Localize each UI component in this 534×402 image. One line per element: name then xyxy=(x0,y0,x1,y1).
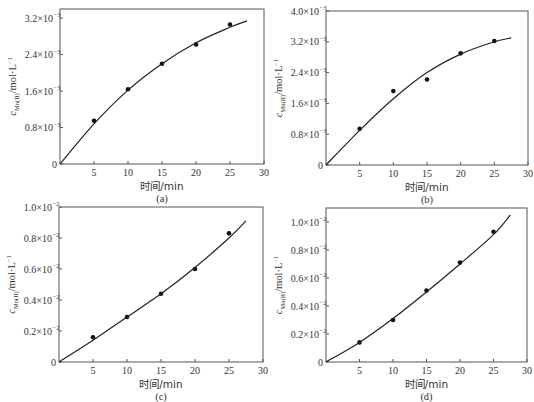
x-tick-label: 5 xyxy=(357,365,362,376)
x-tick-label: 20 xyxy=(190,365,200,376)
y-tick-label: 0.4×10 xyxy=(291,301,319,312)
x-tick-label: 15 xyxy=(422,168,432,179)
y-tick-label: 3.2×10 xyxy=(25,13,53,24)
fit-curve xyxy=(59,221,246,362)
y-tick-label: 0.2×10 xyxy=(291,329,319,340)
panel-c: 5101520253000.2×10−20.4×10−20.6×10−20.8×… xyxy=(5,200,268,402)
y-tick-exponent: −3 xyxy=(320,127,327,134)
y-tick-exponent: −3 xyxy=(54,48,61,55)
x-axis-label: 时间/min xyxy=(139,378,182,390)
x-tick-label: 5 xyxy=(91,365,96,376)
y-tick-label: 0 xyxy=(318,357,323,368)
y-tick-label: 4.0×10 xyxy=(291,6,319,17)
y-axis-label: cMn(II)/mol·L−1 xyxy=(5,255,20,313)
x-tick-label: 25 xyxy=(489,365,499,376)
y-tick-label: 0.6×10 xyxy=(291,273,319,284)
y-tick-label: 2.4×10 xyxy=(291,67,319,78)
y-tick-exponent: −3 xyxy=(320,4,327,11)
data-point xyxy=(391,89,396,94)
x-tick-label: 10 xyxy=(388,168,398,179)
plot-frame xyxy=(59,207,263,362)
y-tick-exponent: −3 xyxy=(54,11,61,18)
y-tick-exponent: −2 xyxy=(320,299,327,306)
panel-b: 5101520253000.8×10−31.6×10−32.4×10−33.2×… xyxy=(272,4,533,206)
fit-curve xyxy=(326,215,510,362)
y-tick-exponent: −2 xyxy=(53,200,60,207)
y-axis-label: cMn(II)/mol·L−1 xyxy=(272,256,287,314)
data-point xyxy=(425,77,430,82)
panel-caption: (d) xyxy=(420,391,433,402)
panel-caption: (c) xyxy=(155,391,167,402)
y-tick-label: 0 xyxy=(51,357,56,368)
y-tick-exponent: −2 xyxy=(53,324,60,331)
plot-frame xyxy=(326,11,528,165)
x-tick-label: 10 xyxy=(123,167,133,178)
x-tick-label: 30 xyxy=(522,365,532,376)
y-tick-label: 1.0×10 xyxy=(24,202,52,213)
y-tick-label: 1.0×10 xyxy=(291,217,319,228)
y-tick-label: 0.8×10 xyxy=(25,122,53,133)
panel-caption: (a) xyxy=(156,193,168,205)
y-tick-exponent: −3 xyxy=(54,121,61,128)
y-tick-label: 1.6×10 xyxy=(291,98,319,109)
y-tick-label: 1.6×10 xyxy=(25,86,53,97)
x-tick-label: 15 xyxy=(157,167,167,178)
y-tick-exponent: −3 xyxy=(320,35,327,42)
y-tick-exponent: −3 xyxy=(320,96,327,103)
y-tick-label: 0.6×10 xyxy=(24,264,52,275)
x-axis-label: 时间/min xyxy=(405,181,448,193)
panel-d: 5101520253000.2×10−20.4×10−20.6×10−20.8×… xyxy=(272,208,532,402)
x-tick-label: 20 xyxy=(191,167,201,178)
x-tick-label: 20 xyxy=(456,168,466,179)
y-tick-exponent: −3 xyxy=(54,84,61,91)
y-tick-label: 2.4×10 xyxy=(25,49,53,60)
y-tick-label: 0 xyxy=(318,160,323,171)
x-tick-label: 30 xyxy=(259,167,269,178)
fit-curve xyxy=(60,21,247,164)
data-point xyxy=(227,231,232,236)
plot-frame xyxy=(60,9,264,164)
x-tick-label: 5 xyxy=(92,167,97,178)
x-tick-label: 25 xyxy=(489,168,499,179)
y-tick-exponent: −2 xyxy=(320,215,327,222)
x-tick-label: 10 xyxy=(122,365,132,376)
y-tick-label: 0.2×10 xyxy=(24,326,52,337)
y-tick-label: 0.4×10 xyxy=(24,295,52,306)
y-tick-label: 3.2×10 xyxy=(291,36,319,47)
y-tick-label: 0.8×10 xyxy=(291,245,319,256)
y-axis-label: cMn(II)/mol·L−1 xyxy=(272,59,287,117)
panel-caption: (b) xyxy=(421,194,434,206)
x-tick-label: 25 xyxy=(225,167,235,178)
x-axis-label: 时间/min xyxy=(140,180,183,192)
x-tick-label: 20 xyxy=(455,365,465,376)
x-tick-label: 15 xyxy=(156,365,166,376)
y-tick-exponent: −3 xyxy=(320,66,327,73)
y-tick-exponent: −2 xyxy=(320,243,327,250)
x-axis-label: 时间/min xyxy=(405,378,448,390)
y-tick-exponent: −2 xyxy=(53,231,60,238)
y-tick-exponent: −2 xyxy=(320,327,327,334)
x-tick-label: 10 xyxy=(388,365,398,376)
x-tick-label: 30 xyxy=(523,168,533,179)
y-tick-exponent: −2 xyxy=(320,271,327,278)
x-tick-label: 30 xyxy=(258,365,268,376)
x-tick-label: 5 xyxy=(357,168,362,179)
x-tick-label: 25 xyxy=(224,365,234,376)
y-axis-label: cMn(II)/mol·L−1 xyxy=(6,57,21,115)
y-tick-exponent: −2 xyxy=(53,262,60,269)
y-tick-label: 0 xyxy=(52,159,57,170)
panel-a: 5101520253000.8×10−31.6×10−32.4×10−33.2×… xyxy=(6,9,269,205)
fit-curve xyxy=(326,38,511,165)
y-tick-label: 0.8×10 xyxy=(24,233,52,244)
y-tick-label: 0.8×10 xyxy=(291,129,319,140)
y-tick-exponent: −2 xyxy=(53,293,60,300)
figure-4-panel-chart: 5101520253000.8×10−31.6×10−32.4×10−33.2×… xyxy=(0,0,534,402)
x-tick-label: 15 xyxy=(422,365,432,376)
